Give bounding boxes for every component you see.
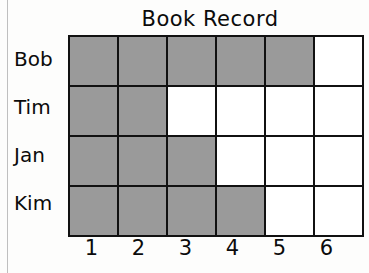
row-label-tim: Tim [14,83,64,131]
column-label-4: 4 [209,233,256,263]
cell-tim-5[interactable] [265,86,314,136]
column-label-2: 2 [115,233,162,263]
table-row [69,36,363,86]
cell-kim-4[interactable] [216,186,265,236]
cell-kim-6[interactable] [314,186,363,236]
column-label-1: 1 [68,233,115,263]
table-row [69,86,363,136]
row-label-kim: Kim [14,179,64,227]
table-row [69,136,363,186]
cell-tim-4[interactable] [216,86,265,136]
column-label-3: 3 [162,233,209,263]
column-label-5: 5 [256,233,303,263]
cell-jan-6[interactable] [314,136,363,186]
row-label-bob: Bob [14,35,64,83]
cell-bob-4[interactable] [216,36,265,86]
cell-bob-6[interactable] [314,36,363,86]
row-label-jan: Jan [14,131,64,179]
cell-kim-1[interactable] [69,186,118,236]
pictograph-grid-container [68,35,364,237]
row-label-axis: Bob Tim Jan Kim [14,35,64,227]
cell-bob-1[interactable] [69,36,118,86]
cell-jan-2[interactable] [118,136,167,186]
column-label-axis: 1 2 3 4 5 6 [68,233,350,263]
cell-kim-5[interactable] [265,186,314,236]
cell-jan-3[interactable] [167,136,216,186]
cell-jan-4[interactable] [216,136,265,186]
book-record-pictograph: Book Record Bob Tim Jan Kim [0,0,369,273]
cell-tim-6[interactable] [314,86,363,136]
cell-bob-2[interactable] [118,36,167,86]
cell-bob-5[interactable] [265,36,314,86]
chart-title: Book Record [68,6,352,32]
table-row [69,186,363,236]
cell-jan-5[interactable] [265,136,314,186]
cell-tim-1[interactable] [69,86,118,136]
cell-tim-2[interactable] [118,86,167,136]
pictograph-grid [68,35,364,237]
cell-jan-1[interactable] [69,136,118,186]
cell-tim-3[interactable] [167,86,216,136]
cell-bob-3[interactable] [167,36,216,86]
cell-kim-3[interactable] [167,186,216,236]
column-label-6: 6 [303,233,350,263]
cell-kim-2[interactable] [118,186,167,236]
